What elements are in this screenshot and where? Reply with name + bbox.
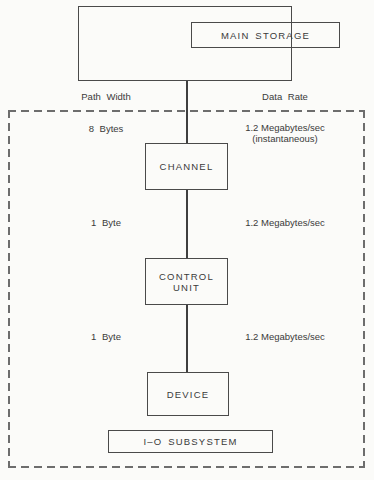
main-storage-box: MAIN STORAGE <box>191 22 340 48</box>
control-unit-box: CONTROL UNIT <box>145 258 228 305</box>
connector-channel-to-control-unit <box>186 190 188 258</box>
data-rate-control-unit: 1.2 Megabytes/sec <box>230 217 340 228</box>
channel-box: CHANNEL <box>145 143 228 190</box>
device-box: DEVICE <box>147 372 229 416</box>
data-rate-channel: 1.2 Megabytes/sec (instantaneous) <box>230 122 340 144</box>
data-rate-device: 1.2 Megabytes/sec <box>230 331 340 342</box>
main-storage-outer-box: MAIN STORAGE <box>78 6 292 81</box>
io-subsystem-label: I–O SUBSYSTEM <box>143 436 237 447</box>
data-rate-channel-value: 1.2 Megabytes/sec <box>230 122 340 133</box>
io-subsystem-box: I–O SUBSYSTEM <box>108 430 273 453</box>
channel-label: CHANNEL <box>160 161 214 172</box>
main-storage-label: MAIN STORAGE <box>221 30 310 41</box>
connector-control-unit-to-device <box>186 305 188 372</box>
connector-main-storage-to-channel <box>186 81 188 143</box>
data-rate-column-header: Data Rate <box>235 91 335 102</box>
path-width-channel: 8 Bytes <box>56 123 156 134</box>
control-unit-label: CONTROL UNIT <box>156 271 217 293</box>
path-width-column-header: Path Width <box>56 91 156 102</box>
path-width-control-unit: 1 Byte <box>56 217 156 228</box>
data-rate-channel-note: (instantaneous) <box>230 133 340 144</box>
path-width-device: 1 Byte <box>56 331 156 342</box>
device-label: DEVICE <box>167 389 210 400</box>
io-subsystem-diagram: MAIN STORAGE Path Width Data Rate 8 Byte… <box>0 0 374 480</box>
